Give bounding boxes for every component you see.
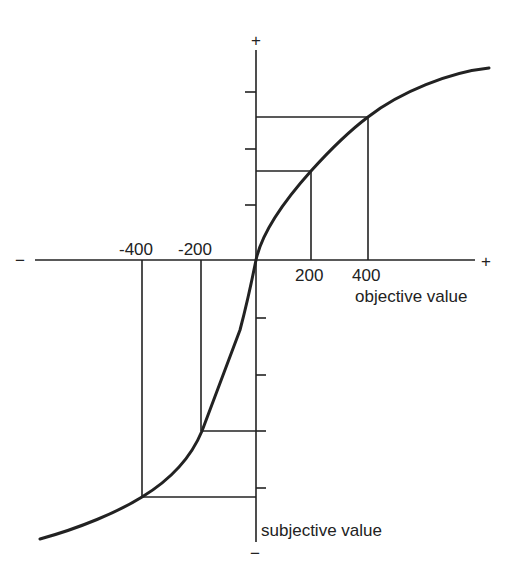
x-tick-label-neg200: -200: [178, 240, 212, 259]
value-function-chart: − + + − -400 -200 200 400 objective valu…: [0, 0, 516, 586]
x-tick-label-400: 400: [352, 266, 380, 285]
y-axis-title: subjective value: [261, 521, 382, 540]
x-tick-label-200: 200: [295, 266, 323, 285]
x-axis-title: objective value: [355, 287, 467, 306]
y-axis-minus-sign: −: [250, 544, 260, 563]
x-axis-plus-sign: +: [481, 252, 491, 271]
x-axis-minus-sign: −: [15, 251, 25, 270]
y-axis-plus-sign: +: [251, 31, 261, 50]
x-tick-label-neg400: -400: [119, 240, 153, 259]
